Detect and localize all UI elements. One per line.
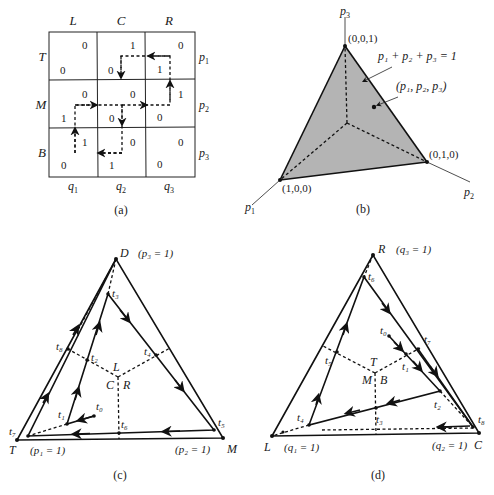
cell-TR-row: 1 — [157, 63, 163, 75]
vertex-C-note: (q₂ = 1) — [432, 439, 467, 452]
vertex-D: D — [119, 246, 129, 260]
caption-d: (d) — [371, 468, 385, 482]
cell-MR-col: 1 — [178, 88, 184, 100]
region-C: C — [106, 378, 115, 392]
panel-b-simplex-3d: p3 p1 p2 (0,0,1) (1,0,0) (0,1,0) p₁ + p₂… — [244, 4, 474, 216]
cell-TR-col: 0 — [178, 39, 184, 51]
cell-BC-row: 1 — [109, 159, 115, 171]
cell-BL-col: 1 — [82, 136, 88, 148]
c-t8: t₈ — [56, 340, 63, 352]
c-t5: t₅ — [218, 416, 225, 428]
axis-p1 — [252, 180, 280, 205]
cell-MC-row: 0 — [109, 112, 115, 124]
cell-MR-row: 0 — [157, 111, 163, 123]
col-header-r: R — [164, 13, 173, 28]
point-label: (p₁, p₂, p₃) — [396, 79, 447, 93]
mixed-strategy-point — [372, 105, 376, 109]
row-header-t: T — [38, 49, 46, 64]
plane-equation-label: p₁ + p₂ + p₃ = 1 — [377, 49, 457, 63]
region-M: M — [361, 373, 373, 387]
col-header-c: C — [117, 13, 126, 28]
region-R: R — [122, 378, 131, 392]
c-t3: t₃ — [112, 287, 119, 299]
c-t4: t₄ — [144, 345, 151, 357]
axis-p2 — [427, 162, 470, 182]
d-t1: t₁ — [402, 360, 409, 372]
vertex-M: M — [226, 442, 238, 456]
best-response-cycle — [75, 56, 170, 153]
d-t8: t₈ — [478, 413, 485, 425]
d-t0: t₀ — [380, 324, 387, 336]
cell-BC-col: 0 — [130, 136, 136, 148]
vertex-T: T — [9, 443, 17, 457]
cell-TC-row: 0 — [108, 64, 114, 76]
col-prob-q3: q3 — [164, 179, 174, 195]
d-t5: t₅ — [325, 354, 332, 366]
cell-BR-row: 0 — [157, 158, 163, 170]
vertex-R: R — [377, 242, 386, 256]
d-t6: t₆ — [368, 270, 375, 282]
simplex-face — [280, 46, 427, 180]
d-t3: t₃ — [376, 413, 383, 425]
panel-a-payoff-matrix: L C R T M B p1 p2 p3 q1 q2 q3 0 0 0 1 1 … — [35, 13, 209, 217]
region-L: L — [112, 360, 120, 374]
vertex-label-100: (1,0,0) — [282, 182, 312, 195]
row-prob-p2: p2 — [198, 98, 209, 114]
c-t7: t₇ — [9, 425, 16, 437]
vertex-D-note: (p₃ = 1) — [138, 247, 173, 260]
axis-label-p2: p2 — [463, 185, 474, 201]
col-header-l: L — [68, 13, 76, 28]
row-header-m: M — [35, 97, 48, 112]
row-prob-p1: p1 — [198, 50, 209, 66]
caption-c: (c) — [113, 468, 126, 482]
row-prob-p3: p3 — [198, 146, 209, 162]
vertex-C: C — [474, 438, 483, 452]
panel-c-row-player-simplex: D (p₃ = 1) T (p₁ = 1) M (p₂ = 1) L C R t… — [9, 246, 238, 482]
cell-BR-col: 0 — [178, 136, 184, 148]
vertex-R-note: (q₃ = 1) — [396, 243, 431, 256]
vertex-M-note: (p₂ = 1) — [175, 443, 210, 456]
cell-TC-col: 1 — [130, 39, 136, 51]
col-prob-q1: q1 — [68, 179, 78, 195]
caption-a: (a) — [114, 203, 127, 217]
vertex-L: L — [263, 440, 271, 454]
d-t4: t₄ — [297, 411, 304, 423]
col-prob-q2: q2 — [116, 179, 126, 195]
region-B: B — [380, 373, 388, 387]
figure-canvas: L C R T M B p1 p2 p3 q1 q2 q3 0 0 0 1 1 … — [0, 0, 494, 495]
vertex-label-001: (0,0,1) — [348, 32, 378, 45]
d-t2: t₂ — [434, 398, 441, 410]
cell-ML-row: 1 — [61, 112, 67, 124]
cell-TL-row: 0 — [60, 64, 66, 76]
cell-MC-col: 0 — [130, 88, 136, 100]
vertex-T-note: (p₁ = 1) — [30, 444, 65, 457]
vertex-L-note: (q₁ = 1) — [284, 441, 319, 454]
cell-TL-col: 0 — [82, 39, 88, 51]
c-t1: t₁ — [58, 408, 65, 420]
caption-b: (b) — [356, 202, 370, 216]
panel-d-column-player-simplex: R (q₃ = 1) L (q₁ = 1) C (q₂ = 1) T M B t… — [263, 242, 485, 482]
row-header-b: B — [38, 145, 46, 160]
axis-label-p3: p3 — [339, 4, 350, 20]
c-t6: t₆ — [121, 418, 128, 430]
region-T: T — [370, 355, 378, 369]
axis-label-p1: p1 — [244, 200, 255, 216]
d-t7: t₇ — [424, 333, 431, 345]
c-t0: t₀ — [96, 400, 103, 412]
cell-ML-col: 0 — [82, 88, 88, 100]
c-t2: t₂ — [91, 351, 98, 363]
cell-BL-row: 0 — [61, 159, 67, 171]
vertex-label-010: (0,1,0) — [429, 148, 459, 161]
